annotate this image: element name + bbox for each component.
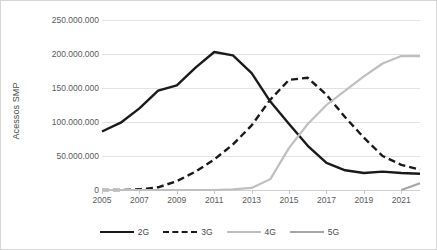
y-axis-tick-label: 50.000.000: [31, 151, 99, 161]
y-axis-tick-label: 150.000.000: [31, 83, 99, 93]
y-axis-tick-label: 200.000.000: [31, 49, 99, 59]
legend-swatch-icon: [290, 231, 324, 233]
x-axis-tick-label: 2013: [232, 195, 272, 205]
x-axis-tick-label: 2005: [82, 195, 122, 205]
x-axis-tick-label: 2011: [194, 195, 234, 205]
y-axis-title: Acessos SMP: [11, 61, 29, 161]
x-axis-tick-mark: [102, 190, 103, 194]
x-axis-tick-mark: [401, 190, 402, 194]
plot-area: [102, 20, 420, 190]
x-axis-tick-mark: [326, 190, 327, 194]
y-axis-tick-label: 100.000.000: [31, 117, 99, 127]
x-axis-tick-label: 2007: [119, 195, 159, 205]
chart-legend: 2G3G4G5G: [1, 223, 437, 241]
x-axis-tick-mark: [177, 190, 178, 194]
y-axis-tick-labels: 050.000.000100.000.000150.000.000200.000…: [31, 1, 99, 201]
x-axis-tick-mark: [289, 190, 290, 194]
series-layer: [102, 20, 420, 190]
legend-item-4g[interactable]: 4G: [227, 227, 276, 237]
y-axis-tick-label: 250.000.000: [31, 15, 99, 25]
x-axis-tick-mark: [252, 190, 253, 194]
x-axis-tick-marks: [102, 190, 420, 194]
legend-label: 5G: [328, 227, 339, 237]
series-line-4g: [102, 56, 420, 190]
legend-label: 3G: [201, 227, 212, 237]
legend-item-2g[interactable]: 2G: [100, 227, 149, 237]
x-axis-tick-labels: 200520072009201120132015201720192021: [102, 195, 420, 209]
legend-swatch-icon: [163, 231, 197, 233]
line-chart: Acessos SMP 050.000.000100.000.000150.00…: [0, 0, 437, 250]
legend-item-3g[interactable]: 3G: [163, 227, 212, 237]
x-axis-tick-label: 2009: [157, 195, 197, 205]
x-axis-tick-mark: [214, 190, 215, 194]
x-axis-tick-label: 2015: [269, 195, 309, 205]
legend-swatch-icon: [100, 231, 134, 233]
x-axis-tick-label: 2021: [381, 195, 421, 205]
legend-label: 2G: [138, 227, 149, 237]
x-axis-tick-label: 2019: [344, 195, 384, 205]
x-axis-tick-mark: [139, 190, 140, 194]
legend-item-5g[interactable]: 5G: [290, 227, 339, 237]
legend-label: 4G: [265, 227, 276, 237]
y-axis-tick-label: 0: [31, 185, 99, 195]
x-axis-tick-label: 2017: [306, 195, 346, 205]
series-line-5g: [401, 183, 420, 190]
x-axis-tick-mark: [364, 190, 365, 194]
legend-swatch-icon: [227, 231, 261, 233]
